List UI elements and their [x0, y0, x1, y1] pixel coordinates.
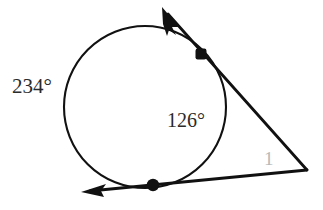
geometry-canvas: 234° 126° 1	[0, 0, 323, 210]
lower-tangent-line	[90, 170, 307, 191]
minor-arc-label: 126°	[167, 109, 205, 131]
lower-tangent-point-marker	[147, 179, 159, 191]
major-arc-label: 234°	[12, 74, 52, 98]
upper-tangent-point-marker	[196, 49, 207, 60]
geometry-figure: 234° 126° 1	[0, 0, 323, 210]
angle-number-label: 1	[264, 148, 274, 169]
upper-tangent-line	[168, 14, 307, 170]
